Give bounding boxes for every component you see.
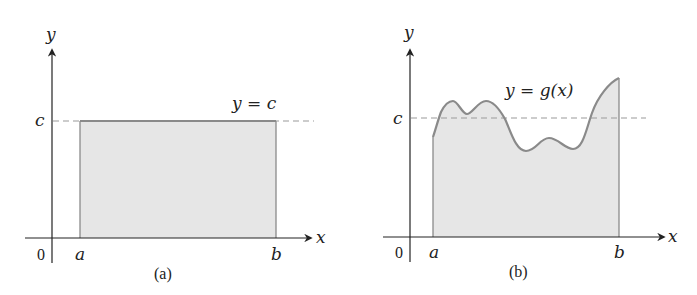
curve-label: y = c xyxy=(231,93,277,113)
origin-label: 0 xyxy=(395,244,403,261)
y-axis-label: y xyxy=(403,22,414,42)
area-under-g xyxy=(433,78,619,237)
y-axis-label: y xyxy=(45,24,56,44)
b-label: b xyxy=(271,244,282,264)
panel-a: y x c 0 a b y = c (a) xyxy=(25,24,326,283)
b-label: b xyxy=(614,242,625,262)
a-label: a xyxy=(429,242,439,262)
caption-a: (a) xyxy=(154,265,172,283)
c-label: c xyxy=(393,108,403,128)
figure: y x c 0 a b y = c (a) y x c 0 a b y = g(… xyxy=(0,0,697,295)
area-under-constant xyxy=(80,121,276,238)
caption-b: (b) xyxy=(509,263,528,281)
origin-label: 0 xyxy=(37,246,45,263)
c-label: c xyxy=(35,110,45,130)
panel-b: y x c 0 a b y = g(x) (b) xyxy=(383,22,678,281)
a-label: a xyxy=(75,244,85,264)
curve-label: y = g(x) xyxy=(504,80,573,100)
x-axis-label: x xyxy=(668,226,678,246)
x-axis-label: x xyxy=(316,227,326,247)
